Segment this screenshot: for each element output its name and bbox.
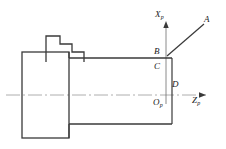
rapid-traverse-line [167,24,204,56]
point-label-c: C [154,62,160,71]
z-axis-arrowhead [199,92,206,97]
x-axis-arrowhead [163,21,168,28]
origin-subscript: p [160,102,163,108]
technical-diagram: Xp Zp Op A B C D [0,0,226,149]
x-axis-letter: X [155,9,161,19]
z-axis-label: Zp [192,96,200,105]
point-label-d: D [172,80,179,89]
point-label-a: A [204,15,210,24]
origin-letter: O [153,97,160,107]
x-axis-label: Xp [155,10,164,19]
origin-label: Op [153,98,163,107]
point-label-b: B [154,47,160,56]
diagram-canvas [0,0,226,149]
z-axis-subscript: p [197,100,200,106]
x-axis-subscript: p [161,14,164,20]
